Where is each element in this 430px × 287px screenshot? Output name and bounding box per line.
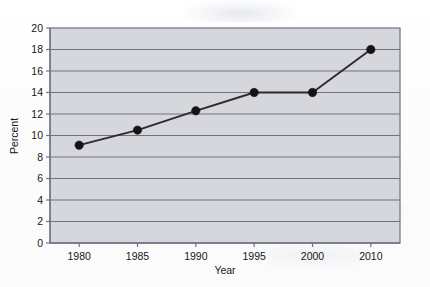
y-tick-label: 14 <box>31 86 43 98</box>
y-axis-ticks: 02468101214161820 <box>31 22 50 249</box>
y-tick-label: 8 <box>37 151 43 163</box>
y-tick-label: 16 <box>31 65 43 77</box>
data-point <box>308 88 316 96</box>
y-tick-label: 12 <box>31 108 43 120</box>
data-point <box>192 107 200 115</box>
x-tick-label: 2000 <box>301 250 325 262</box>
y-tick-label: 2 <box>37 215 43 227</box>
data-point <box>75 141 83 149</box>
y-tick-label: 20 <box>31 22 43 34</box>
y-tick-label: 6 <box>37 172 43 184</box>
x-tick-label: 1995 <box>242 250 266 262</box>
data-point <box>250 88 258 96</box>
y-tick-label: 4 <box>37 194 43 206</box>
line-chart: 02468101214161820 1980198519901995200020… <box>0 0 430 287</box>
y-tick-label: 18 <box>31 43 43 55</box>
chart-svg: 02468101214161820 1980198519901995200020… <box>0 0 430 287</box>
x-tick-label: 1980 <box>67 250 91 262</box>
x-tick-label: 1990 <box>184 250 208 262</box>
x-axis-title: Year <box>214 264 236 276</box>
x-axis-ticks: 198019851990199520002010 <box>67 243 382 262</box>
data-point <box>133 126 141 134</box>
data-point <box>367 45 375 53</box>
y-tick-label: 10 <box>31 129 43 141</box>
y-tick-label: 0 <box>37 237 43 249</box>
y-axis-title: Percent <box>8 118 20 154</box>
x-tick-label: 2010 <box>359 250 383 262</box>
x-tick-label: 1985 <box>126 250 150 262</box>
